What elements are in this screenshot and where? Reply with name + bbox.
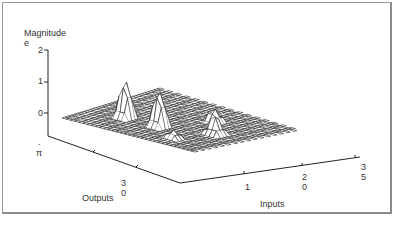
z-axis-label-suffix: e [24,38,29,48]
y-axis-label: Outputs [82,193,114,203]
z-tick-2: 2 [38,45,43,55]
x-tick-1: 1 [245,182,250,192]
x-tick-2-top: 2 [302,172,307,182]
y-tick-top: 3 [121,178,126,188]
z-tick-1: 1 [38,76,43,86]
x-tick-3-top: 3 [361,162,366,172]
z-tick-pi: π [36,148,42,158]
x-tick-2-bottom: 0 [302,182,307,192]
x-tick-3-bottom: 5 [361,172,366,182]
z-axis-label: Magnitude [24,28,66,38]
y-tick-bottom: 0 [121,188,126,198]
x-axis-label: Inputs [260,199,285,209]
z-tick-0: 0 [38,108,43,118]
